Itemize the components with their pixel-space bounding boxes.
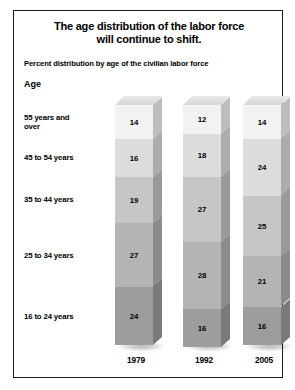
- age-category-label: 16 to 24 years: [24, 312, 116, 321]
- bar-segment-value: 24: [115, 312, 153, 321]
- bar-segment-side-face: [153, 279, 162, 345]
- bar-column[interactable]: 14242521162005: [243, 11, 295, 377]
- bar-segment-value: 27: [115, 250, 153, 259]
- age-category-label-line-1: 45 to 54 years: [24, 153, 116, 162]
- bar-segment-value: 16: [243, 321, 281, 330]
- bar-segment-side-face: [221, 301, 230, 347]
- age-category-label-line-1: 35 to 44 years: [24, 195, 116, 204]
- bar-segment[interactable]: 18: [183, 134, 221, 177]
- bar-segment-value: 19: [115, 195, 153, 204]
- bar-segment[interactable]: 27: [115, 223, 153, 288]
- age-category-label-line-2: over: [24, 122, 116, 131]
- chart-frame: The age distribution of the labor force …: [13, 10, 283, 378]
- bar-column[interactable]: 12182728161992: [183, 11, 239, 377]
- bar-segment-side-face: [281, 298, 290, 344]
- bar-segment-side-face: [281, 188, 290, 256]
- bar-segment[interactable]: 28: [183, 242, 221, 309]
- bar-segment-side-face: [281, 130, 290, 196]
- stacked-bar: 1416192724: [115, 105, 153, 345]
- year-axis-label: 1979: [108, 355, 164, 365]
- bar-segment[interactable]: 16: [243, 307, 281, 345]
- bar-segment[interactable]: 16: [183, 309, 221, 347]
- bar-segment-value: 21: [243, 277, 281, 286]
- bar-segment-value: 16: [183, 324, 221, 333]
- bar-segment-value: 14: [243, 117, 281, 126]
- bar-segment[interactable]: 21: [243, 256, 281, 306]
- bar-segment-side-face: [281, 248, 290, 306]
- bar-segment-value: 25: [243, 222, 281, 231]
- bar-segment[interactable]: 14: [115, 105, 153, 139]
- age-category-label: 25 to 34 years: [24, 251, 116, 260]
- bar-segment[interactable]: 25: [243, 196, 281, 256]
- bar-segment-value: 28: [183, 271, 221, 280]
- bar-segment[interactable]: 19: [115, 177, 153, 223]
- age-category-label-line-1: 55 years and: [24, 113, 116, 122]
- year-axis-label: 2005: [236, 355, 292, 365]
- bar-segment-value: 14: [115, 117, 153, 126]
- bar-segment-value: 24: [243, 163, 281, 172]
- bar-segment-value: 16: [115, 153, 153, 162]
- bar-segment[interactable]: 14: [243, 105, 281, 139]
- bar-segment-value: 12: [183, 115, 221, 124]
- bar-segment[interactable]: 27: [183, 177, 221, 242]
- age-category-label: 35 to 44 years: [24, 195, 116, 204]
- bar-segment[interactable]: 12: [183, 105, 221, 134]
- bar-segment-side-face: [221, 169, 230, 242]
- stacked-bar: 1424252116: [243, 105, 281, 345]
- year-axis-label: 1992: [176, 355, 232, 365]
- bar-column[interactable]: 14161927241979: [115, 11, 171, 377]
- bar-segment-value: 18: [183, 151, 221, 160]
- plot-area: 55 years andover45 to 54 years35 to 44 y…: [14, 11, 282, 377]
- bar-segment[interactable]: 24: [243, 139, 281, 197]
- bar-segment-value: 27: [183, 205, 221, 214]
- bar-segment-side-face: [221, 234, 230, 309]
- age-category-label-line-1: 16 to 24 years: [24, 312, 116, 321]
- stacked-bar: 1218272816: [183, 105, 221, 347]
- bar-segment-side-face: [153, 214, 162, 287]
- age-category-label-line-1: 25 to 34 years: [24, 251, 116, 260]
- age-category-label: 45 to 54 years: [24, 153, 116, 162]
- age-category-label: 55 years andover: [24, 113, 116, 131]
- bar-segment[interactable]: 16: [115, 139, 153, 177]
- bar-segment[interactable]: 24: [115, 287, 153, 345]
